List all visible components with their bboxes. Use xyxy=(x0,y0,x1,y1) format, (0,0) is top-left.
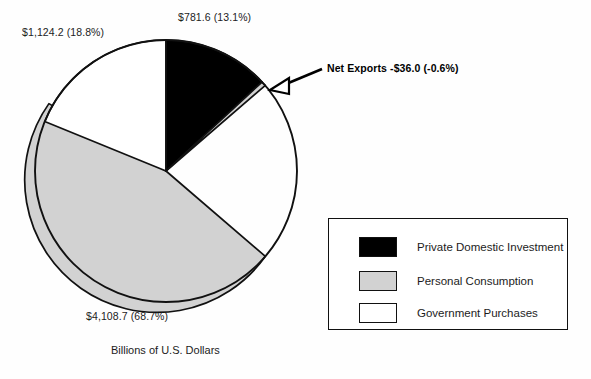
chart-legend: Private Domestic Investment Personal Con… xyxy=(328,218,568,330)
chart-page: $781.6 (13.1%) $1,124.2 (18.8%) $4,108.7… xyxy=(0,0,591,379)
legend-item-private-domestic-investment: Private Domestic Investment xyxy=(359,237,563,257)
chart-caption: Billions of U.S. Dollars xyxy=(111,344,220,356)
slice-value-label-personal-consumption: $4,108.7 (68.7%) xyxy=(86,310,168,323)
legend-label-government-purchases: Government Purchases xyxy=(417,307,538,319)
legend-label-personal-consumption: Personal Consumption xyxy=(417,275,533,287)
legend-swatch-white-icon xyxy=(359,303,397,323)
slice-value-label-private-domestic-investment: $781.6 (13.1%) xyxy=(178,11,251,24)
callout-arrow-line xyxy=(286,69,322,84)
pie-slice-private-domestic-investment xyxy=(166,40,262,171)
legend-item-personal-consumption: Personal Consumption xyxy=(359,271,533,291)
annotation-net-exports: Net Exports -$36.0 (-0.6%) xyxy=(327,62,459,74)
slice-value-label-government-purchases: $1,124.2 (18.8%) xyxy=(22,26,104,39)
callout-arrow-head xyxy=(270,78,289,94)
legend-item-government-purchases: Government Purchases xyxy=(359,303,538,323)
legend-swatch-black-icon xyxy=(359,237,397,257)
legend-label-private-domestic-investment: Private Domestic Investment xyxy=(417,241,563,253)
legend-swatch-gray-icon xyxy=(359,271,397,291)
